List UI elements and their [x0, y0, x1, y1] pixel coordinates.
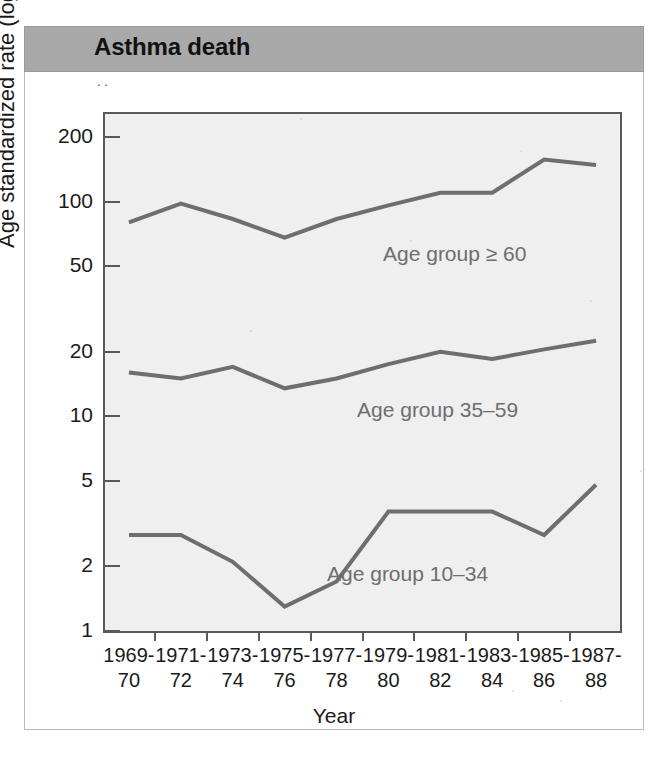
y-axis-tick-label: 2: [5, 553, 93, 577]
series-line-2: [129, 341, 596, 389]
y-axis-tick-label: 1: [5, 618, 93, 642]
paper-speck: [520, 150, 522, 152]
paper-speck: [470, 560, 472, 562]
series-line-3: [129, 485, 596, 607]
paper-speck: [640, 470, 642, 472]
x-axis-tick-mark: [206, 631, 208, 641]
x-axis-tick-mark: [413, 631, 415, 641]
y-axis-tick-label: 5: [5, 468, 93, 492]
y-axis-tick-mark: [103, 630, 120, 632]
x-axis-title: Year: [0, 704, 668, 728]
x-axis-tick-mark: [154, 631, 156, 641]
x-axis-tick-mark: [465, 631, 467, 641]
plot-inner: Age group ≥ 60Age group 35–59Age group 1…: [105, 114, 620, 631]
x-axis-tick-label: 1987-88: [564, 643, 628, 693]
paper-speck: [600, 688, 602, 690]
y-axis-tick-mark: [103, 136, 120, 138]
paper-speck: [410, 240, 412, 242]
title-speckle-marks: . .: [97, 79, 113, 85]
paper-speck: [590, 300, 592, 302]
paper-speck: [250, 330, 252, 332]
y-axis-tick-label: 20: [5, 339, 93, 363]
y-axis-tick-label: 10: [5, 403, 93, 427]
paper-speck: [120, 660, 122, 662]
page-title: Asthma death: [94, 33, 250, 61]
paper-speck: [300, 118, 302, 120]
series-annotation-2: Age group 35–59: [357, 398, 518, 422]
series-annotation-3: Age group 10–34: [327, 562, 488, 586]
y-axis-tick-label: 50: [5, 253, 93, 277]
series-annotation-1: Age group ≥ 60: [383, 242, 526, 266]
series-line-1: [129, 160, 596, 238]
x-axis-tick-mark: [310, 631, 312, 641]
y-axis-title: Age standardized rate (log scale): [0, 0, 20, 248]
paper-speck: [80, 200, 82, 202]
y-axis-tick-mark: [103, 265, 120, 267]
series-lines: [105, 114, 620, 631]
y-axis-tick-mark: [103, 201, 120, 203]
y-axis-tick-mark: [103, 565, 120, 567]
x-axis-tick-mark: [517, 631, 519, 641]
y-axis-tick-mark: [103, 415, 120, 417]
x-axis-tick-mark: [258, 631, 260, 641]
plot-area: Age group ≥ 60Age group 35–59Age group 1…: [103, 112, 622, 633]
y-axis-tick-mark: [103, 351, 120, 353]
x-axis-tick-mark: [569, 631, 571, 641]
figure-panel: . . Asthma death Age group ≥ 60Age group…: [0, 0, 668, 777]
x-axis-tick-mark: [362, 631, 364, 641]
y-axis-tick-mark: [103, 480, 120, 482]
paper-speck: [512, 690, 514, 692]
paper-speck: [560, 700, 562, 702]
